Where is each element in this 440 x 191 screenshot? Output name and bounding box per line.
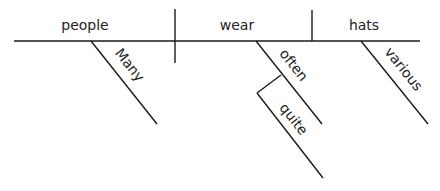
object-word: hats (349, 17, 379, 33)
adverb-modifier-word: quite (277, 100, 312, 138)
object-modifier-word: various (382, 44, 426, 94)
subject-word: people (61, 17, 108, 33)
sentence-diagram: people wear hats Many often quite variou… (0, 0, 440, 191)
verb-modifier-word: often (276, 46, 311, 84)
verb-word: wear (220, 17, 255, 33)
subject-modifier-word: Many (112, 45, 148, 85)
adverb-connector-line (257, 75, 281, 93)
